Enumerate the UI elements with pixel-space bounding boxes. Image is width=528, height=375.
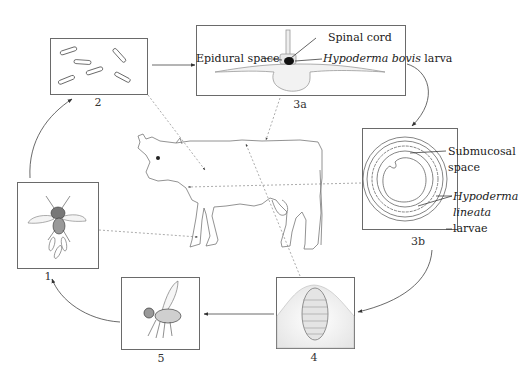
stage-5-label: 5	[158, 352, 165, 365]
fly-top-illustration	[28, 196, 86, 259]
stage-3a-label: 3a	[293, 98, 307, 111]
fly-side-illustration	[144, 281, 181, 338]
migration-arrows	[99, 95, 361, 276]
stage-4-label: 4	[311, 351, 318, 364]
esophagus-illustration	[363, 137, 447, 221]
arrow-5-to-1	[52, 279, 120, 322]
stage-2-label: 2	[95, 96, 102, 109]
eggs-illustration	[58, 46, 131, 85]
arrow-3b-to-4	[358, 250, 432, 312]
stage-1-label: 1	[45, 270, 52, 283]
hypoderma-bovis-name: Hypoderma bovis	[323, 52, 421, 65]
cow-illustration	[138, 134, 322, 249]
stage-3b-label: 3b	[411, 235, 425, 248]
dotted-1-to-cow	[99, 230, 198, 237]
spinal-cord-icon	[284, 57, 294, 65]
submucosal-label-line1: Submucosal	[448, 145, 516, 158]
dotted-3b-to-cow	[188, 183, 361, 187]
hypoderma-lineata-label-line2: lineata	[453, 206, 491, 219]
arrow-1-to-2	[30, 99, 72, 178]
dotted-4-to-cow	[246, 144, 300, 276]
larva-suffix: larva	[421, 52, 453, 65]
hypoderma-bovis-label: Hypoderma bovis larva	[323, 52, 452, 65]
larvae-label: larvae	[453, 222, 488, 235]
dotted-3a-to-cow	[266, 98, 280, 140]
hypoderma-lineata-label-line1: Hypoderma	[453, 190, 518, 203]
epidural-space-label: Epidural space	[196, 52, 279, 65]
life-cycle-diagram: 2 3a 3b 4 5 1 Spinal cord Epidural space…	[0, 0, 528, 375]
submucosal-label-line2: space	[448, 161, 480, 174]
cow-eye-icon	[156, 156, 160, 160]
larva-illustration	[277, 285, 354, 348]
spinal-cord-label: Spinal cord	[328, 31, 392, 44]
arrow-3a-to-3b	[407, 64, 428, 126]
cycle-arrows	[30, 64, 432, 322]
